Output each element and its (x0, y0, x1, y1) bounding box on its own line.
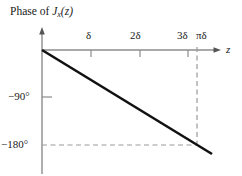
y-tick-label-minus90: −90° (8, 90, 30, 102)
plot-title: Phase of Jx(z) (10, 5, 73, 19)
x-axis-label: z (226, 43, 230, 55)
x-axis-arrowhead (214, 47, 222, 53)
phase-curve (42, 50, 212, 154)
y-axis-arrowhead (39, 27, 45, 35)
title-prefix: Phase of (10, 5, 52, 17)
x-tick-label-2delta: 2δ (130, 29, 141, 41)
x-tick-label-3delta: 3δ (177, 29, 188, 41)
plot-canvas (0, 0, 242, 176)
phase-plot-figure: Phase of Jx(z) z δ 2δ 3δ πδ −90° −180° (0, 0, 242, 176)
title-argument: (z) (61, 5, 73, 17)
x-tick-label-delta: δ (86, 29, 91, 41)
x-tick-label-pidelta: πδ (196, 29, 207, 41)
y-tick-label-minus180: −180° (1, 138, 28, 150)
